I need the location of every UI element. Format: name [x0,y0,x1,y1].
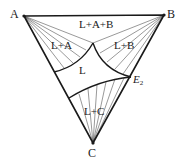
vertex-c-label: C [88,147,96,159]
region-label-l-c: L+C [84,106,104,117]
boundary-l-c [69,77,131,98]
region-label-l-a: L+A [51,40,72,51]
point-label-e2-main: E [133,73,140,85]
region-label-l: L [79,65,86,76]
ternary-phase-diagram: A B C L+A+B L+A L+B L L+C E2 [0,0,185,168]
point-label-e2-subscript: 2 [140,79,144,87]
vertex-a-dot [22,14,25,17]
point-label-e2: E2 [133,74,143,87]
vertex-a-label: A [10,8,19,20]
vertex-c-dot [91,141,94,144]
vertex-b-dot [162,13,165,16]
vertex-b-label: B [167,8,175,20]
region-label-l-b: L+B [114,40,134,51]
region-label-l-a-b: L+A+B [79,19,113,30]
